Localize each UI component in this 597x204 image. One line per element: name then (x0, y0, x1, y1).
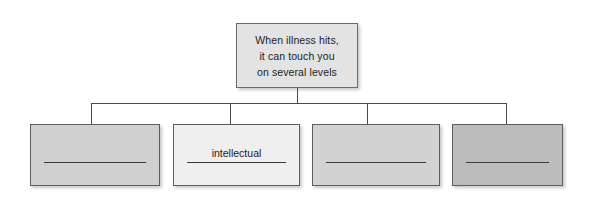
answer-label-2: intellectual (212, 147, 262, 160)
connector-drop-4 (506, 103, 507, 124)
answer-rule-1 (44, 162, 146, 163)
answer-box-4[interactable] (452, 124, 563, 186)
root-concept-line-1: When illness hits, (255, 32, 339, 48)
answer-box-3[interactable] (312, 124, 440, 186)
diagram-canvas: When illness hits, it can touch you on s… (0, 0, 597, 204)
answer-rule-3 (326, 162, 426, 163)
root-concept-box[interactable]: When illness hits, it can touch you on s… (236, 23, 358, 88)
answer-box-2[interactable]: intellectual (173, 124, 300, 186)
connector-stem-root (297, 88, 298, 103)
connector-horizontal-bus (91, 103, 506, 104)
answer-rule-4 (466, 162, 549, 163)
answer-box-1[interactable] (30, 124, 160, 186)
connector-drop-1 (91, 103, 92, 124)
root-concept-line-3: on several levels (257, 64, 337, 80)
root-concept-line-2: it can touch you (259, 48, 334, 64)
connector-drop-2 (230, 103, 231, 124)
connector-drop-3 (367, 103, 368, 124)
answer-rule-2 (187, 162, 286, 163)
